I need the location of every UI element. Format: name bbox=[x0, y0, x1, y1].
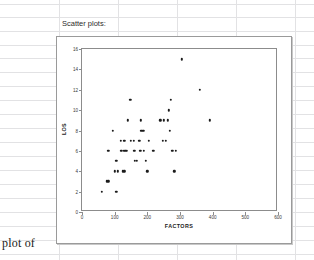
y-axis-tick-label: 14 bbox=[73, 67, 78, 72]
scatter-point bbox=[119, 139, 121, 141]
scatter-point bbox=[115, 190, 117, 192]
scatter-point bbox=[107, 180, 109, 182]
y-axis-tick-label: 4 bbox=[75, 169, 78, 174]
scatter-point bbox=[166, 119, 168, 121]
y-axis-tick bbox=[79, 131, 82, 132]
x-axis-tick-label: 100 bbox=[111, 215, 119, 220]
scatter-point bbox=[168, 129, 170, 131]
scatter-point bbox=[138, 139, 140, 141]
scatter-point bbox=[148, 139, 150, 141]
grid-row-line bbox=[0, 17, 314, 18]
scatter-point bbox=[171, 150, 173, 152]
scatter-point bbox=[132, 139, 134, 141]
scatter-point bbox=[162, 119, 164, 121]
grid-row-line bbox=[0, 4, 314, 5]
scatter-point bbox=[142, 129, 144, 131]
x-axis-tick-label: 600 bbox=[274, 215, 282, 220]
x-axis-tick-label: 300 bbox=[176, 215, 184, 220]
scatter-point bbox=[167, 109, 169, 111]
scatter-point bbox=[123, 170, 125, 172]
scatter-plot-area[interactable] bbox=[82, 49, 276, 210]
scatter-point bbox=[139, 150, 141, 152]
scatter-point bbox=[113, 170, 115, 172]
scatter-point bbox=[112, 129, 114, 131]
y-axis-tick-label: 8 bbox=[75, 128, 78, 133]
x-axis-tick-label: 500 bbox=[241, 215, 249, 220]
y-axis-tick-label: 16 bbox=[73, 47, 78, 52]
scatter-point bbox=[209, 119, 211, 121]
scatter-point bbox=[127, 119, 129, 121]
y-axis-tick bbox=[79, 69, 82, 70]
scatter-point bbox=[143, 150, 145, 152]
scatter-point bbox=[173, 170, 175, 172]
x-axis-tick-label: 200 bbox=[143, 215, 151, 220]
scatter-point bbox=[126, 150, 128, 152]
scatter-point bbox=[145, 160, 147, 162]
y-axis-tick-label: 2 bbox=[75, 189, 78, 194]
document-body-text: plot of bbox=[2, 236, 35, 251]
scatter-point bbox=[107, 150, 109, 152]
x-axis-tick-label: 0 bbox=[81, 215, 84, 220]
x-axis-tick-label: 400 bbox=[209, 215, 217, 220]
scatter-point bbox=[152, 150, 154, 152]
scatter-point bbox=[180, 58, 182, 60]
y-axis-tick-label: 10 bbox=[73, 108, 78, 113]
grid-column-line bbox=[295, 0, 296, 260]
y-axis-tick bbox=[79, 151, 82, 152]
scatter-point bbox=[170, 99, 172, 101]
grid-row-line bbox=[0, 31, 314, 32]
scatter-point bbox=[175, 150, 177, 152]
y-axis-tick bbox=[79, 110, 82, 111]
y-axis-tick-label: 6 bbox=[75, 148, 78, 153]
scatter-point bbox=[140, 119, 142, 121]
x-axis-title: FACTORS bbox=[81, 223, 277, 229]
embedded-chart-object[interactable]: 02468101214160100200300400500600 LOS FAC… bbox=[56, 36, 292, 244]
scatter-point bbox=[115, 160, 117, 162]
y-axis-tick bbox=[79, 49, 82, 50]
y-axis-title: LOS bbox=[61, 123, 67, 135]
y-axis-tick bbox=[79, 171, 82, 172]
scatter-point bbox=[159, 119, 161, 121]
plot-frame: 02468101214160100200300400500600 bbox=[81, 48, 277, 211]
grid-row-line bbox=[0, 254, 314, 255]
scatter-point bbox=[146, 170, 148, 172]
scatter-point bbox=[164, 139, 166, 141]
y-axis-tick bbox=[79, 192, 82, 193]
scatter-point bbox=[123, 139, 125, 141]
scatter-point bbox=[198, 89, 200, 91]
scatter-point bbox=[100, 190, 102, 192]
y-axis-tick bbox=[79, 90, 82, 91]
scatter-point bbox=[117, 170, 119, 172]
scatter-point bbox=[136, 160, 138, 162]
scatter-point bbox=[133, 150, 135, 152]
y-axis-tick-label: 0 bbox=[75, 210, 78, 215]
scatter-plots-caption: Scatter plots: bbox=[62, 19, 106, 28]
scatter-point bbox=[129, 99, 131, 101]
y-axis-tick-label: 12 bbox=[73, 87, 78, 92]
